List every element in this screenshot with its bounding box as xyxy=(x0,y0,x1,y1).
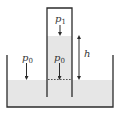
tube-in-liquid-diagram: p1 p0 p0 h xyxy=(0,0,122,114)
label-h: h xyxy=(84,48,90,59)
label-p1: p1 xyxy=(55,13,66,26)
label-p0-outer: p0 xyxy=(22,52,33,65)
